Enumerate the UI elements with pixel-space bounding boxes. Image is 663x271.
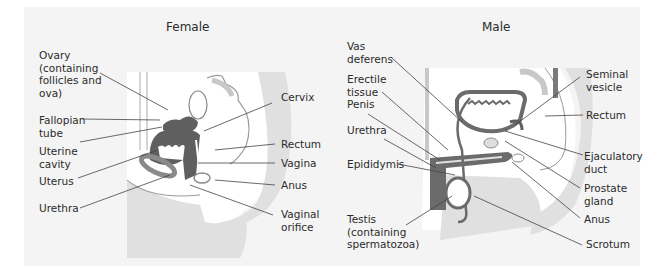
label-prostate-gland: Prostate gland: [584, 182, 627, 207]
label-female-anus: Anus: [281, 179, 307, 192]
male-title: Male: [482, 20, 510, 34]
label-vagina: Vagina: [281, 157, 316, 170]
label-seminal-vesicle: Seminal vesicle: [586, 68, 628, 93]
label-male-anus: Anus: [584, 213, 610, 226]
label-penis: Penis: [347, 98, 374, 111]
anatomy-illustrations: [0, 0, 663, 271]
label-vaginal-orifice: Vaginal orifice: [281, 208, 319, 233]
label-ovary: Ovary (containing follicles and ova): [39, 49, 102, 99]
label-epididymis: Epididymis: [347, 158, 404, 171]
label-uterus: Uterus: [39, 175, 74, 188]
label-erectile-tissue: Erectile tissue: [347, 73, 386, 98]
label-cervix: Cervix: [281, 91, 314, 104]
male-illustration: [422, 68, 593, 240]
female-title: Female: [166, 20, 209, 34]
label-male-rectum: Rectum: [586, 109, 626, 122]
label-fallopian-tube: Fallopian tube: [39, 114, 85, 139]
label-male-urethra: Urethra: [347, 124, 387, 137]
label-female-rectum: Rectum: [281, 138, 321, 151]
label-uterine-cavity: Uterine cavity: [39, 145, 78, 170]
female-illustration: [127, 72, 291, 258]
label-female-urethra: Urethra: [39, 202, 79, 215]
label-scrotum: Scrotum: [586, 238, 630, 251]
label-ejaculatory-duct: Ejaculatory duct: [584, 150, 643, 175]
label-vas-deferens: Vas deferens: [347, 40, 393, 65]
label-testis: Testis (containing spermatozoa): [347, 213, 419, 251]
